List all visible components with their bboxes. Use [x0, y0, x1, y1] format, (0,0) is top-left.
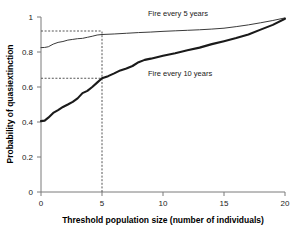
y-tick-label-04: 0.4: [22, 118, 34, 127]
y-tick-label-08: 0.8: [22, 48, 34, 57]
y-tick-label-1: 1: [29, 13, 34, 22]
chart-background: [0, 0, 299, 237]
x-axis-title: Threshold population size (number of ind…: [62, 215, 264, 225]
series-label-fire-every-5-years: Fire every 5 years: [148, 9, 208, 18]
x-tick-label-5: 5: [100, 199, 105, 208]
quasiextinction-probability-chart: 1 0.8 0.6 0.4 0.2 0 0 5 10 15 20 Fire ev…: [0, 0, 299, 237]
x-tick-label-15: 15: [220, 199, 229, 208]
series-label-fire-every-10-years: Fire every 10 years: [148, 69, 212, 78]
x-tick-label-0: 0: [39, 199, 44, 208]
y-axis-title: Probability of quasiextinction: [5, 44, 15, 163]
y-tick-label-0: 0: [29, 188, 34, 197]
x-tick-label-20: 20: [281, 199, 290, 208]
y-tick-label-02: 0.2: [22, 153, 34, 162]
y-tick-label-06: 0.6: [22, 83, 34, 92]
chart-figure: 1 0.8 0.6 0.4 0.2 0 0 5 10 15 20 Fire ev…: [0, 0, 299, 237]
x-tick-label-10: 10: [159, 199, 168, 208]
